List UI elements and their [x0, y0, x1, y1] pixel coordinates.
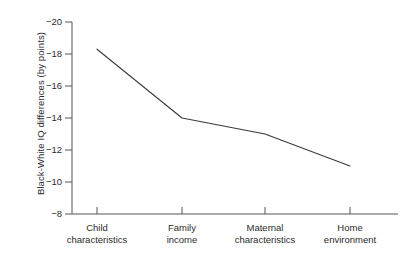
- x-tick-label-line: environment: [295, 234, 405, 246]
- x-axis-tick-labels: Child characteristics Family income Mate…: [0, 0, 417, 257]
- chart-figure: Black-White IQ differences (by points) −…: [0, 0, 417, 257]
- x-tick-label-home-environment: Home environment: [295, 222, 405, 245]
- x-tick-label-line: Home: [295, 222, 405, 234]
